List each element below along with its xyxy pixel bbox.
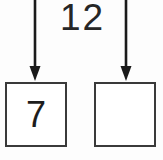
total-number-label: 12 xyxy=(60,0,102,38)
right-box[interactable] xyxy=(94,82,156,147)
left-arrow-head-icon xyxy=(30,66,41,81)
right-down-arrow xyxy=(121,0,132,81)
left-box[interactable]: 7 xyxy=(5,82,67,147)
right-box-value xyxy=(96,84,154,145)
right-arrow-head-icon xyxy=(121,66,132,81)
left-box-value: 7 xyxy=(7,84,65,145)
number-bond-worksheet: 12 7 xyxy=(0,0,163,160)
left-down-arrow xyxy=(30,0,41,81)
